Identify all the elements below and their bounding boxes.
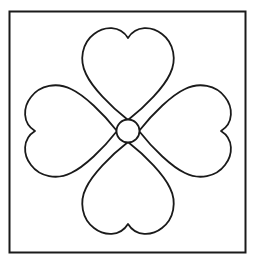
heart-rosette-illustration [0, 0, 262, 269]
image-canvas: Four-Heart Rosette Outline Line-art colo… [0, 0, 262, 269]
center-circle [117, 120, 140, 143]
